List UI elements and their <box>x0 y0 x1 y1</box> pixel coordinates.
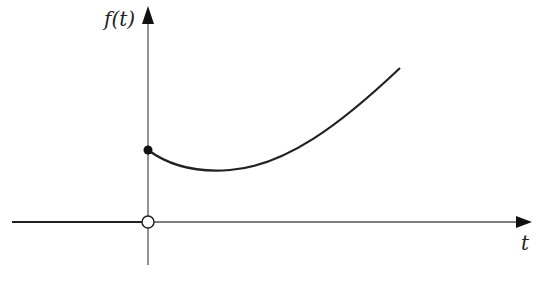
x-axis-arrow-icon <box>516 216 532 228</box>
x-axis-label: t <box>521 231 530 255</box>
closed-endpoint-dot <box>144 146 153 155</box>
function-plot: f(t) t <box>0 0 538 289</box>
y-axis-label: f(t) <box>102 7 135 31</box>
open-endpoint-dot <box>142 216 154 228</box>
y-axis-arrow-icon <box>142 6 154 24</box>
function-curve <box>148 68 400 171</box>
